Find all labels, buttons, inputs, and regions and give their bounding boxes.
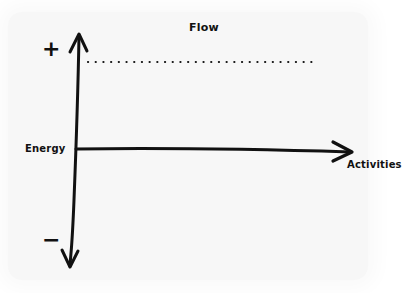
y-axis-label: Energy [25, 143, 66, 154]
y-axis-line [70, 36, 79, 266]
positive-marker: + [42, 38, 61, 60]
x-axis-label: Activities [347, 159, 402, 170]
negative-marker: − [42, 229, 61, 251]
diagram-title: Flow [189, 21, 219, 34]
x-axis-line [76, 149, 350, 152]
